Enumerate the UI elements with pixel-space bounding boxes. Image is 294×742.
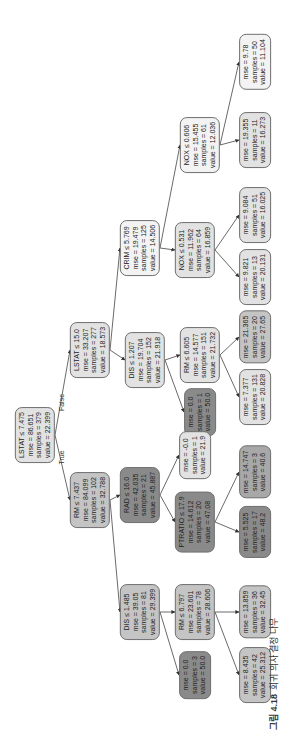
node-line: samples = 17 bbox=[251, 511, 260, 553]
tree-edge bbox=[220, 62, 239, 145]
node-line: mse = 9.084 bbox=[242, 192, 251, 238]
node-line: samples = 1 bbox=[191, 436, 200, 474]
leaf-node: mse = 9.084samples = 51value = 16.025 bbox=[239, 187, 271, 243]
node-line: value = 16.859 bbox=[204, 227, 213, 273]
tree-edge bbox=[160, 455, 179, 495]
node-line: value = 28.606 bbox=[204, 589, 213, 635]
caption-text: 회귀 의사 결정 나무 bbox=[269, 618, 279, 690]
split-node: RM ≤ 6.797mse = 23.601samples = 78value … bbox=[175, 584, 215, 640]
node-line: mse = 14.747 bbox=[242, 451, 251, 494]
node-line: value = 16.273 bbox=[259, 117, 268, 163]
node-line: value = 27.65 bbox=[259, 316, 268, 359]
node-line: samples = 277 bbox=[90, 327, 99, 373]
tree-edge bbox=[55, 350, 70, 435]
node-line: samples = 3 bbox=[251, 451, 260, 494]
edge-label-false: False bbox=[57, 394, 64, 411]
decision-tree-diagram: LSTAT ≤ 7.475mse = 86.651samples = 379va… bbox=[0, 0, 294, 742]
node-line: samples = 152 bbox=[145, 337, 154, 383]
node-line: value = 21.732 bbox=[209, 332, 218, 378]
split-node: NOX ≤ 0.606mse = 15.455samples = 61value… bbox=[180, 117, 220, 173]
node-line: samples = 102 bbox=[90, 477, 99, 523]
node-line: RM ≤ 6.797 bbox=[178, 589, 187, 635]
node-line: LSTAT ≤ 15.0 bbox=[73, 327, 82, 373]
node-line: NOX ≤ 0.606 bbox=[183, 122, 192, 168]
node-line: mse = 19.355 bbox=[242, 117, 251, 163]
node-line: mse = -0.0 bbox=[182, 436, 191, 474]
tree-edge bbox=[220, 140, 239, 145]
caption-label: 그림 4.18 bbox=[269, 694, 279, 730]
node-line: samples = 51 bbox=[251, 192, 260, 238]
node-line: mse = 13.859 bbox=[242, 591, 251, 634]
split-node: DIS ≤ 1.485mse = 39.05samples = 81value … bbox=[120, 584, 160, 640]
tree-edge bbox=[160, 495, 175, 522]
node-line: mse = 0.0 bbox=[182, 656, 191, 694]
figure-caption: 그림 4.18회귀 의사 결정 나무 bbox=[264, 560, 288, 730]
leaf-node: mse = 5.525samples = 17value = 48.2 bbox=[239, 506, 271, 558]
node-line: value = 50.0 bbox=[199, 656, 208, 694]
node-line: samples = 50 bbox=[251, 39, 260, 85]
node-line: samples = 20 bbox=[195, 496, 204, 547]
node-line: value = 20.828 bbox=[259, 374, 268, 420]
tree-edge bbox=[215, 215, 239, 250]
node-line: value = 21.918 bbox=[154, 337, 163, 383]
node-line: mse = 9.821 bbox=[242, 254, 251, 300]
node-line: DIS ≤ 1.207 bbox=[128, 337, 137, 383]
node-line: mse = 7.377 bbox=[242, 374, 251, 420]
split-node: LSTAT ≤ 15.0mse = 33.207samples = 277val… bbox=[70, 322, 110, 378]
tree-edge bbox=[110, 500, 120, 612]
node-line: value = 45.887 bbox=[149, 472, 158, 518]
node-line: PTRATIO ≤ 17.9 bbox=[178, 496, 187, 547]
split-node: CRIM ≤ 5.769mse = 19.479samples = 125val… bbox=[120, 220, 160, 276]
node-line: CRIM ≤ 5.769 bbox=[123, 225, 132, 271]
leaf-node: mse = 7.377samples = 131value = 20.828 bbox=[239, 369, 271, 425]
node-line: RAD ≤ 16.0 bbox=[123, 472, 132, 518]
node-line: value = 29.399 bbox=[149, 589, 158, 635]
node-line: RM ≤ 6.605 bbox=[183, 332, 192, 378]
split-node: RM ≤ 6.605mse = 14.577samples = 151value… bbox=[180, 327, 220, 383]
node-line: samples = 20 bbox=[251, 316, 260, 359]
tree-edge bbox=[110, 350, 125, 360]
node-line: DIS ≤ 1.485 bbox=[123, 589, 132, 635]
split-node: LSTAT ≤ 7.475mse = 86.651samples = 379va… bbox=[15, 407, 55, 463]
split-node: PTRATIO ≤ 17.9mse = 14.612samples = 20va… bbox=[175, 491, 215, 552]
node-line: samples = 11 bbox=[251, 117, 260, 163]
node-line: value = 40.6 bbox=[259, 451, 268, 494]
node-line: samples = 21 bbox=[140, 472, 149, 518]
node-line: samples = 42 bbox=[251, 652, 260, 698]
leaf-node: mse = 9.78samples = 50value = 11.104 bbox=[239, 34, 271, 90]
node-line: samples = 131 bbox=[251, 374, 260, 420]
leaf-node: mse = 21.365samples = 20value = 27.65 bbox=[239, 311, 271, 364]
tree-edge bbox=[55, 435, 70, 500]
node-line: mse = 15.455 bbox=[191, 122, 200, 168]
node-line: value = 18.573 bbox=[99, 327, 108, 373]
tree-edge bbox=[215, 612, 239, 675]
split-node: RAD ≤ 16.0mse = 42.035samples = 21value … bbox=[120, 467, 160, 523]
tree-edge bbox=[110, 495, 120, 500]
node-line: samples = 125 bbox=[140, 225, 149, 271]
node-line: mse = 19.479 bbox=[131, 225, 140, 271]
node-line: mse = 8.435 bbox=[242, 652, 251, 698]
node-line: NOX ≤ 0.531 bbox=[178, 227, 187, 273]
tree-edge bbox=[160, 248, 175, 250]
leaf-node: mse = -0.0samples = 1value = 21.9 bbox=[179, 431, 211, 479]
split-node: RM ≤ 7.437mse = 84.099samples = 102value… bbox=[70, 472, 110, 528]
node-line: samples = 61 bbox=[200, 122, 209, 168]
node-line: value = 14.506 bbox=[149, 225, 158, 271]
node-line: mse = 11.962 bbox=[186, 227, 195, 273]
node-line: value = 32.788 bbox=[99, 477, 108, 523]
node-line: value = 48.2 bbox=[259, 511, 268, 553]
node-line: value = 11.104 bbox=[259, 39, 268, 85]
leaf-node: mse = 14.747samples = 3value = 40.6 bbox=[239, 446, 271, 499]
node-line: value = 12.036 bbox=[209, 122, 218, 168]
tree-edge bbox=[215, 250, 239, 277]
tree-edge bbox=[165, 355, 180, 360]
tree-edge bbox=[215, 472, 239, 522]
node-line: samples = 81 bbox=[140, 589, 149, 635]
node-line: mse = 33.207 bbox=[81, 327, 90, 373]
node-line: mse = 86.651 bbox=[26, 412, 35, 458]
node-line: mse = 5.525 bbox=[242, 511, 251, 553]
node-line: value = 47.08 bbox=[204, 496, 213, 547]
node-line: samples = 379 bbox=[35, 412, 44, 458]
node-line: mse = 23.601 bbox=[186, 589, 195, 635]
leaf-node: mse = 19.355samples = 11value = 16.273 bbox=[239, 112, 271, 168]
